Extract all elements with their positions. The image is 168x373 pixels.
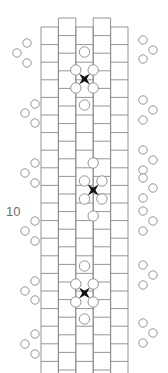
cluster-circle <box>139 339 147 347</box>
cluster-circle <box>21 340 29 348</box>
cluster-circle <box>31 277 39 285</box>
lattice-circle <box>79 194 89 204</box>
lattice-circle <box>79 47 89 57</box>
lattice-diagram-canvas: 10 <box>0 0 168 373</box>
lattice-circle <box>88 211 98 221</box>
cluster-circle <box>31 237 39 245</box>
cluster-circle <box>139 194 147 202</box>
lattice-circle <box>88 158 98 168</box>
x-marker <box>79 288 90 299</box>
cluster-circle <box>23 59 31 67</box>
lattice-circle <box>88 65 98 75</box>
cluster-circle <box>149 217 157 225</box>
cluster-circle <box>31 296 39 304</box>
cluster-circle <box>149 46 157 54</box>
lattice-circle <box>79 100 89 110</box>
cluster-circle <box>139 174 147 182</box>
lattice-circle <box>71 65 81 75</box>
lattice-circle <box>79 314 89 324</box>
diagram-svg: 10 <box>0 0 168 373</box>
cluster-circle <box>149 184 157 192</box>
lattice-circle <box>88 83 98 93</box>
lattice-circle <box>79 176 89 186</box>
cluster-circle <box>139 55 147 63</box>
cluster-circle <box>139 227 147 235</box>
cluster-circle <box>139 116 147 124</box>
lattice-circle <box>88 279 98 289</box>
cluster-circle <box>31 119 39 127</box>
cluster-circle <box>13 49 21 57</box>
lattice-circle <box>71 279 81 289</box>
cluster-circle <box>21 287 29 295</box>
cluster-circle <box>139 319 147 327</box>
cluster-circle <box>149 271 157 279</box>
cluster-circle <box>21 109 29 117</box>
lattice-circle <box>71 83 81 93</box>
cluster-circle <box>139 36 147 44</box>
cluster-circle <box>31 350 39 358</box>
cluster-circle <box>31 179 39 187</box>
lattice-circle <box>79 261 89 271</box>
cluster-circle <box>139 281 147 289</box>
x-marker <box>79 74 90 85</box>
lattice-circle <box>88 297 98 307</box>
cluster-circle <box>149 106 157 114</box>
cluster-circle <box>139 207 147 215</box>
lattice-circle <box>71 297 81 307</box>
cluster-circle <box>31 217 39 225</box>
cluster-circle <box>21 227 29 235</box>
axis-label-10: 10 <box>6 204 20 219</box>
cluster-circle <box>31 330 39 338</box>
cluster-circle <box>21 169 29 177</box>
cluster-circle <box>149 156 157 164</box>
cluster-circle <box>31 100 39 108</box>
cluster-circle <box>139 261 147 269</box>
cluster-circle <box>139 96 147 104</box>
cluster-circle <box>23 39 31 47</box>
lattice-circle <box>97 194 107 204</box>
cluster-circle <box>149 329 157 337</box>
cluster-circle <box>139 166 147 174</box>
cluster-circle <box>31 159 39 167</box>
cluster-circle <box>139 146 147 154</box>
lattice-circle <box>97 176 107 186</box>
